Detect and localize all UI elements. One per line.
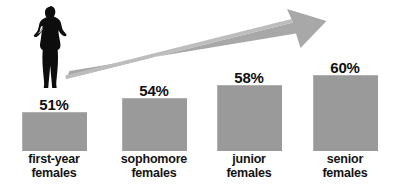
bar-category-line-1: first-year [28, 152, 80, 166]
bar-category-label: sophomore females [109, 152, 199, 180]
bar-category-line-1: sophomore [121, 152, 187, 166]
bar-category-line-2: females [9, 166, 99, 180]
bar-category-label: first-year females [9, 152, 99, 180]
bar-category-label: junior females [204, 152, 294, 180]
bar-value-label: 60% [313, 60, 377, 75]
bar [313, 75, 378, 151]
upward-trend-arrow-icon [60, 8, 335, 80]
bar-category-line-2: females [204, 166, 294, 180]
bar-value-label: 51% [22, 97, 86, 112]
bar-category-line-1: junior [232, 152, 266, 166]
bar-value-label: 58% [217, 70, 281, 85]
bar [217, 85, 282, 151]
bar-category-line-2: females [300, 166, 390, 180]
bar [122, 98, 187, 151]
bar-chart: 51% first-year females 54% sophomore fem… [0, 0, 393, 195]
bar-value-label: 54% [122, 83, 186, 98]
bar-category-label: senior females [300, 152, 390, 180]
bar [22, 112, 87, 151]
bar-category-line-2: females [109, 166, 199, 180]
bar-category-line-1: senior [327, 152, 363, 166]
